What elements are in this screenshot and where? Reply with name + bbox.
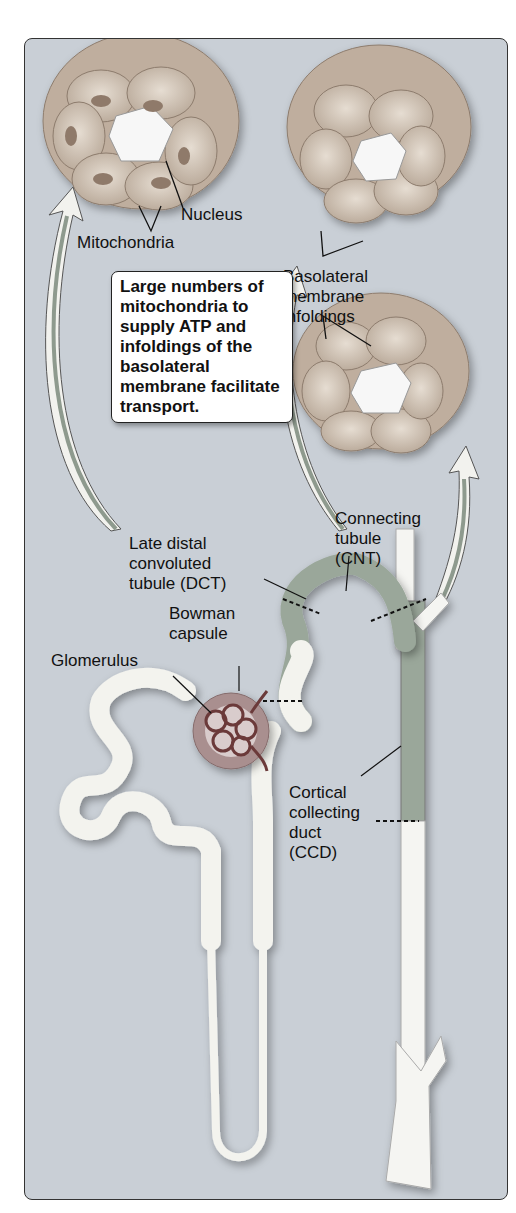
label-mitochondria: Mitochondria <box>77 233 174 253</box>
label-connecting-tubule: Connecting tubule (CNT) <box>335 509 421 569</box>
label-late-dct: Late distal convoluted tubule (DCT) <box>129 534 226 594</box>
label-glomerulus: Glomerulus <box>51 651 138 671</box>
callout-box: Large numbers of mitochondria to supply … <box>111 271 293 423</box>
label-cortical-collecting-duct: Cortical collecting duct (CCD) <box>289 783 360 863</box>
label-bowman-capsule: Bowman capsule <box>169 604 235 644</box>
nephron-illustration <box>25 39 507 1199</box>
dct-cross-section-icon <box>43 39 239 210</box>
ccd-cross-section-icon <box>287 45 471 223</box>
label-nucleus: Nucleus <box>181 205 242 225</box>
diagram-panel: Nucleus Mitochondria Basolateral membran… <box>24 38 508 1200</box>
dct-cnt-tubule-icon <box>289 564 405 721</box>
label-basolateral-infoldings: Basolateral membrane infoldings <box>283 267 368 327</box>
